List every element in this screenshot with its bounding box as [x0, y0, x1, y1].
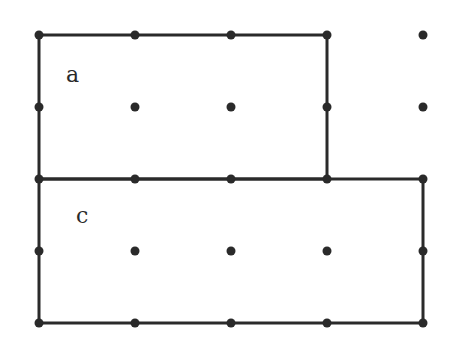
- grid-dot: [35, 31, 44, 40]
- grid-dot: [35, 319, 44, 328]
- grid-dot: [131, 31, 140, 40]
- grid-dot: [323, 31, 332, 40]
- dot-grid-diagram: a c: [0, 0, 456, 347]
- grid-dot: [227, 319, 236, 328]
- grid-dot: [131, 247, 140, 256]
- grid-dot: [131, 175, 140, 184]
- grid-dot: [323, 319, 332, 328]
- rectangle-a: [39, 35, 327, 179]
- grid-dot: [227, 103, 236, 112]
- grid-dot: [35, 247, 44, 256]
- grid-dot: [227, 247, 236, 256]
- grid-dot: [323, 247, 332, 256]
- grid-dot: [419, 319, 428, 328]
- grid-dot: [419, 31, 428, 40]
- grid-dot: [323, 175, 332, 184]
- grid-dot: [323, 103, 332, 112]
- grid-dot: [131, 319, 140, 328]
- grid-dot: [35, 103, 44, 112]
- grid-dot: [419, 175, 428, 184]
- rectangle-c-label: c: [76, 205, 88, 227]
- grid-dot: [227, 175, 236, 184]
- rectangle-a-label: a: [66, 64, 79, 86]
- grid-dot: [35, 175, 44, 184]
- grid-canvas: [0, 0, 456, 347]
- grid-dot: [131, 103, 140, 112]
- grid-dot: [419, 247, 428, 256]
- grid-dot: [419, 103, 428, 112]
- grid-dot: [227, 31, 236, 40]
